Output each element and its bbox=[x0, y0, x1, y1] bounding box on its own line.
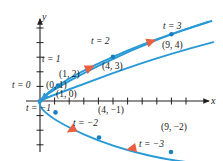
label-t1: t = 1 bbox=[42, 55, 61, 65]
x-axis-label: x bbox=[211, 96, 215, 106]
point-tm1 bbox=[53, 110, 58, 115]
point-tm2 bbox=[97, 135, 102, 140]
parametric-curve-figure: t = 3 (9, 4) t = 2 (4, 3) t = 1 (1, 2) t… bbox=[0, 0, 223, 161]
label-t0: t = 0 bbox=[12, 81, 31, 91]
point-t2 bbox=[111, 55, 116, 60]
label-point-1-2: (1, 2) bbox=[59, 70, 80, 80]
label-t-minus-3: t = −3 bbox=[139, 140, 164, 150]
label-t-minus-2: t = −2 bbox=[73, 119, 98, 129]
label-t3: t = 3 bbox=[163, 22, 182, 32]
label-point-9-minus-2: (9, −2) bbox=[161, 123, 187, 133]
y-axis-label: y bbox=[42, 12, 46, 22]
label-point-4-3: (4, 3) bbox=[102, 62, 123, 72]
point-tm3 bbox=[169, 150, 174, 155]
point-t3 bbox=[169, 32, 174, 37]
label-t2: t = 2 bbox=[91, 37, 110, 47]
plot-canvas bbox=[0, 0, 223, 161]
label-t-minus-1: t = −1 bbox=[26, 104, 51, 114]
label-point-4-minus-1: (4, −1) bbox=[98, 106, 124, 116]
direction-arrows bbox=[64, 35, 157, 154]
label-point-1-0: (1, 0) bbox=[56, 90, 77, 100]
label-point-9-4: (9, 4) bbox=[162, 41, 183, 51]
